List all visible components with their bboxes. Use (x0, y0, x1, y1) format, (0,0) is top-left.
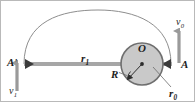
label-radius-near-subscript: 0 (174, 94, 178, 102)
label-velocity-at-A-letter: v (176, 16, 180, 27)
label-velocity-at-A: v0 (176, 17, 184, 27)
label-center-O: O (138, 43, 146, 54)
label-velocity-at-A-prime-subscript: 1 (14, 91, 17, 98)
label-velocity-at-A-subscript: 0 (181, 22, 184, 29)
label-apoapsis: A (181, 59, 188, 70)
label-velocity-at-A-prime-letter: v (9, 85, 13, 96)
label-apoapsis-prime: A' (7, 57, 17, 68)
label-radius-far-subscript: 1 (86, 59, 90, 67)
label-radius-near-letter: r (169, 87, 173, 99)
physics-diagram-figure: A' A r1 O R r0 v0 v1 (0, 0, 195, 102)
diagram-canvas (1, 1, 195, 102)
label-radius-far: r1 (81, 53, 89, 64)
label-body-radius: R (111, 69, 118, 80)
label-velocity-at-A-prime: v1 (9, 86, 17, 96)
label-radius-far-letter: r (81, 52, 85, 64)
label-radius-near: r0 (169, 88, 177, 99)
label-apoapsis-prime-mark: ' (14, 57, 17, 68)
